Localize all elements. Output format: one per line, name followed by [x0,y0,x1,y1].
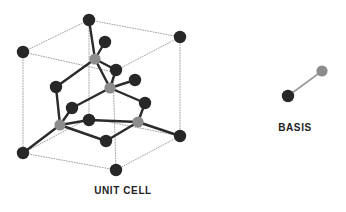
atom-dark [83,114,95,126]
crystal-structure-diagram [0,0,346,212]
atom-dark [17,46,29,58]
figure-canvas: UNIT CELL BASIS [0,0,346,212]
atom-gray [104,82,115,93]
cell-edge [23,153,116,170]
atom-dark [174,130,186,142]
atom-dark [83,14,95,26]
atom-dark [66,102,78,114]
atom-gray [132,116,143,127]
cell-edge [116,136,180,170]
atomic-bond [23,125,60,153]
atom-dark [139,97,151,109]
atom-dark [17,147,29,159]
cell-edge [23,20,89,52]
atom-dark [110,164,122,176]
basis-bond [288,71,322,96]
basis-atom-dark [282,90,294,102]
atomic-bond [60,125,106,141]
cell-edge [89,20,180,37]
atom-dark [129,74,141,86]
atom-gray [54,119,65,130]
basis-atom-gray [316,65,327,76]
atomic-bond [72,88,110,108]
atom-dark [110,64,122,76]
atom-dark [100,135,112,147]
atomic-bond [89,120,138,122]
atom-gray [89,53,100,64]
cell-edge [113,37,180,72]
atom-dark [99,36,111,48]
atomic-bond [138,122,180,136]
basis-group [282,65,328,102]
unit-cell-label: UNIT CELL [0,185,246,196]
atom-dark [174,31,186,43]
atom-dark [50,81,62,93]
basis-label: BASIS [245,122,345,133]
unit-cell-atoms [17,14,186,176]
